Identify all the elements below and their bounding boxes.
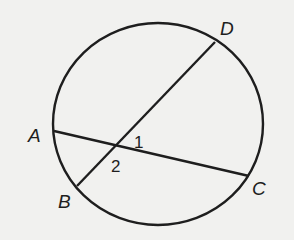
angle-label-2: 2 (111, 157, 120, 176)
point-label-d: D (220, 18, 234, 39)
point-label-b: B (58, 191, 71, 212)
angle-label-1: 1 (134, 133, 143, 152)
circle-chords-diagram: A B C D 1 2 (0, 0, 294, 240)
point-label-c: C (252, 178, 266, 199)
point-label-a: A (27, 125, 41, 146)
circle (53, 23, 263, 225)
chord-ac (54, 131, 249, 176)
